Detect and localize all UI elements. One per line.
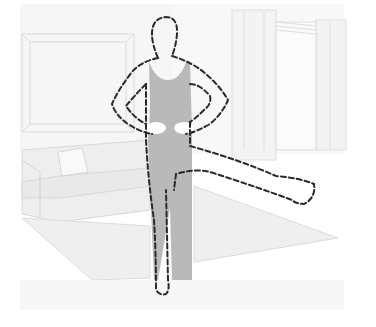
rug-left: [22, 218, 150, 280]
floor: [20, 280, 344, 310]
scene-svg: [0, 0, 376, 327]
rug-right: [194, 186, 338, 262]
illustration-scene: Person standing on one leg with hands on…: [0, 0, 376, 327]
cushion: [58, 148, 88, 176]
window-with-curtains: [232, 10, 346, 160]
sofa: [22, 140, 150, 224]
